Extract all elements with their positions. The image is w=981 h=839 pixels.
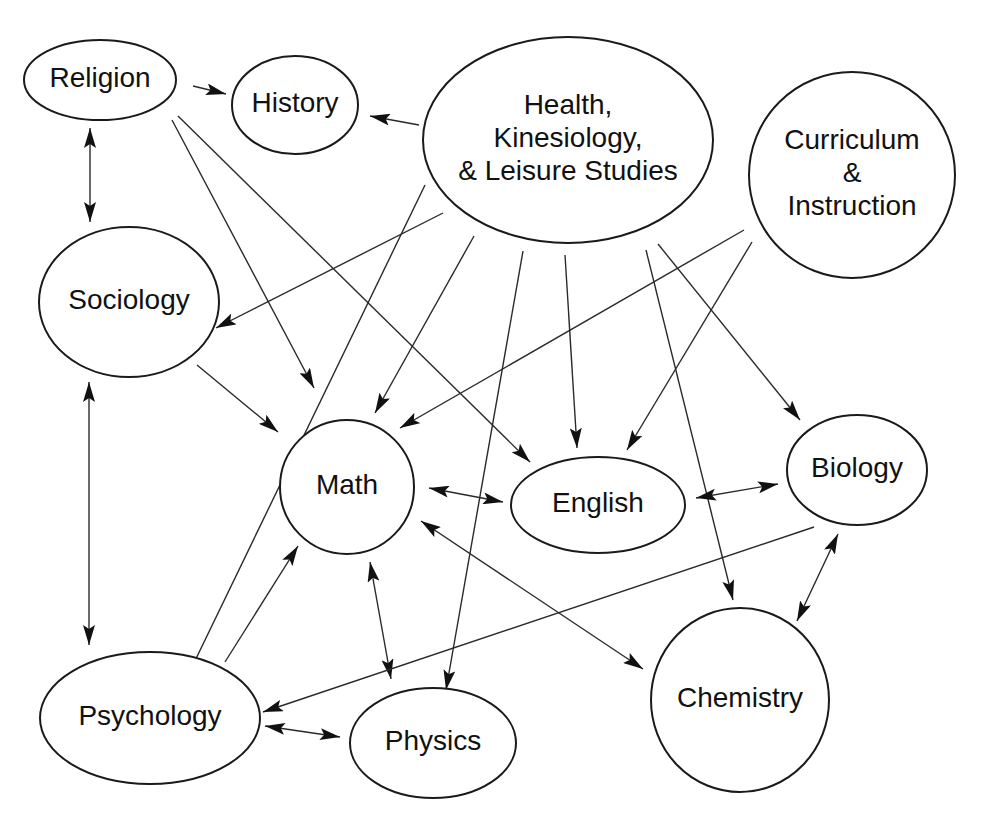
node-curriculum-label: Instruction [787, 190, 916, 221]
node-religion-label: Religion [49, 62, 150, 93]
node-sociology: Sociology [39, 227, 219, 377]
node-psychology: Psychology [40, 652, 260, 784]
node-health-label: Health, [524, 89, 613, 120]
node-biology-label: Biology [811, 452, 903, 483]
edge-psychology-to-math-arrow-icon [225, 546, 298, 662]
node-math: Math [280, 420, 414, 554]
edge-curriculum-to-math-arrow-icon [400, 230, 744, 428]
node-history: History [232, 56, 358, 154]
node-curriculum: Curriculum&Instruction [749, 72, 955, 278]
node-health-label: Kinesiology, [494, 122, 643, 153]
node-biology: Biology [787, 415, 927, 525]
node-health-label: & Leisure Studies [458, 155, 677, 186]
edge-sociology-to-math-arrow-icon [197, 365, 278, 432]
edge-psychology-to-physics-bidirectional-arrow-icon [265, 726, 340, 737]
node-curriculum-label: Curriculum [784, 124, 919, 155]
node-physics-label: Physics [385, 725, 481, 756]
edge-health-to-sociology-arrow-icon [216, 213, 443, 328]
edge-health-to-biology-arrow-icon [658, 244, 800, 420]
node-health: Health,Kinesiology,& Leisure Studies [423, 37, 713, 243]
node-psychology-label: Psychology [78, 700, 221, 731]
nodes-layer: ReligionHistoryHealth,Kinesiology,& Leis… [24, 37, 955, 798]
edge-health-to-chemistry-arrow-icon [646, 250, 733, 600]
node-sociology-label: Sociology [68, 284, 189, 315]
edge-religion-to-history-arrow-icon [193, 86, 226, 94]
node-english-label: English [552, 487, 644, 518]
edge-health-to-english-arrow-icon [565, 255, 577, 448]
edge-english-to-biology-bidirectional-arrow-icon [696, 484, 778, 498]
edge-health-to-physics-arrow-icon [446, 251, 523, 690]
node-physics: Physics [350, 688, 516, 798]
edge-health-to-history-arrow-icon [370, 116, 419, 125]
node-english: English [511, 457, 685, 553]
department-relationship-diagram: ReligionHistoryHealth,Kinesiology,& Leis… [0, 0, 981, 839]
node-religion: Religion [24, 40, 176, 120]
edge-biology-to-chemistry-bidirectional-arrow-icon [797, 534, 838, 621]
edge-math-to-english-bidirectional-arrow-icon [429, 488, 503, 502]
node-chemistry-label: Chemistry [677, 682, 803, 713]
edge-math-to-physics-bidirectional-arrow-icon [370, 562, 391, 679]
node-history-label: History [251, 87, 338, 118]
node-chemistry: Chemistry [651, 608, 829, 792]
node-curriculum-label: & [843, 157, 862, 188]
node-math-label: Math [316, 469, 378, 500]
edge-curriculum-to-english-arrow-icon [627, 242, 752, 450]
